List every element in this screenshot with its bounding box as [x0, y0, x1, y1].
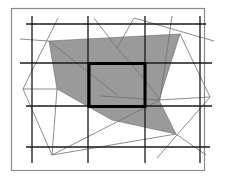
diagram-canvas: [0, 0, 232, 178]
